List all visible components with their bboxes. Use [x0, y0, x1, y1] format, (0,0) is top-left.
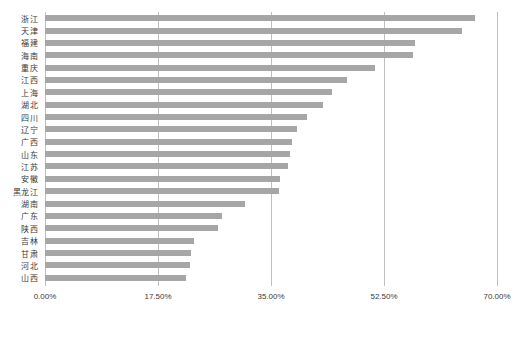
bar-row	[45, 136, 497, 148]
bar-row	[45, 111, 497, 123]
y-axis-label: 河北	[0, 259, 42, 271]
plot-area	[45, 12, 497, 284]
bar[interactable]	[45, 102, 323, 108]
y-axis-label: 浙江	[0, 12, 42, 24]
y-axis-label: 山东	[0, 148, 42, 160]
bar-row	[45, 259, 497, 271]
x-axis-tick-mark	[497, 282, 498, 286]
bar-row	[45, 86, 497, 98]
x-axis-tick-label: 17.50%	[144, 292, 171, 301]
bar-rows	[45, 12, 497, 284]
bar[interactable]	[45, 65, 375, 71]
y-axis-label: 上海	[0, 86, 42, 98]
bar[interactable]	[45, 238, 194, 244]
bar[interactable]	[45, 163, 288, 169]
x-axis-tick-mark	[45, 282, 46, 286]
y-axis-label: 吉林	[0, 234, 42, 246]
horizontal-bar-chart: 浙江天津福建海南重庆江西上海湖北四川辽宁广西山东江苏安徽黑龙江湖南广东陕西吉林甘…	[0, 0, 520, 337]
x-axis-tick-label: 52.50%	[370, 292, 397, 301]
bar[interactable]	[45, 114, 307, 120]
bar-row	[45, 197, 497, 209]
bar[interactable]	[45, 225, 218, 231]
x-axis-tick-mark	[384, 282, 385, 286]
x-axis-tick-mark	[271, 282, 272, 286]
bar[interactable]	[45, 262, 190, 268]
bar[interactable]	[45, 275, 186, 281]
y-axis-label: 安徽	[0, 173, 42, 185]
x-axis-tick-labels: 0.00%17.50%35.00%52.50%70.00%	[45, 286, 497, 306]
y-axis-label: 海南	[0, 49, 42, 61]
y-axis-label: 江西	[0, 74, 42, 86]
y-axis-label: 山西	[0, 272, 42, 284]
bar-row	[45, 99, 497, 111]
y-axis-label: 辽宁	[0, 123, 42, 135]
bar-row	[45, 49, 497, 61]
bar-row	[45, 61, 497, 73]
bar-row	[45, 173, 497, 185]
y-axis-label: 陕西	[0, 222, 42, 234]
bar[interactable]	[45, 139, 292, 145]
y-axis-label: 甘肃	[0, 247, 42, 259]
bar[interactable]	[45, 201, 245, 207]
y-axis-label: 福建	[0, 37, 42, 49]
bar[interactable]	[45, 52, 413, 58]
bar[interactable]	[45, 77, 347, 83]
bar-row	[45, 222, 497, 234]
bar[interactable]	[45, 15, 475, 21]
bar[interactable]	[45, 188, 279, 194]
y-axis-label: 湖北	[0, 99, 42, 111]
bar-row	[45, 234, 497, 246]
y-axis-label: 广东	[0, 210, 42, 222]
y-axis-label: 黑龙江	[0, 185, 42, 197]
y-axis-label: 湖南	[0, 197, 42, 209]
x-axis-tick-label: 0.00%	[34, 292, 57, 301]
x-axis-tick-label: 35.00%	[257, 292, 284, 301]
bar-row	[45, 160, 497, 172]
bar-row	[45, 185, 497, 197]
bar-row	[45, 123, 497, 135]
bar-row	[45, 247, 497, 259]
bar-row	[45, 37, 497, 49]
y-axis-label: 广西	[0, 136, 42, 148]
y-axis-label: 重庆	[0, 61, 42, 73]
bar-row	[45, 74, 497, 86]
bar-row	[45, 148, 497, 160]
y-axis-label: 江苏	[0, 160, 42, 172]
y-axis-label: 天津	[0, 24, 42, 36]
bar[interactable]	[45, 176, 280, 182]
bar-row	[45, 24, 497, 36]
bar[interactable]	[45, 28, 462, 34]
y-axis-category-labels: 浙江天津福建海南重庆江西上海湖北四川辽宁广西山东江苏安徽黑龙江湖南广东陕西吉林甘…	[0, 12, 42, 284]
bar[interactable]	[45, 250, 191, 256]
bar[interactable]	[45, 40, 415, 46]
y-axis-label: 四川	[0, 111, 42, 123]
x-axis-tick-mark	[158, 282, 159, 286]
bar[interactable]	[45, 89, 332, 95]
bar[interactable]	[45, 213, 222, 219]
bar[interactable]	[45, 126, 297, 132]
bar[interactable]	[45, 151, 290, 157]
x-axis-tick-label: 70.00%	[483, 292, 510, 301]
bar-row	[45, 210, 497, 222]
bar-row	[45, 12, 497, 24]
gridline-4	[497, 12, 498, 284]
